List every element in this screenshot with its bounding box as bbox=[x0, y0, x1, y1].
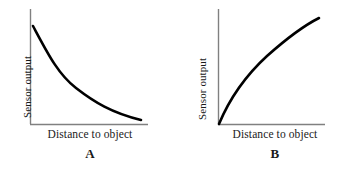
sensor-response-figure: Sensor output Distance to object A Senso… bbox=[0, 0, 341, 171]
panel-letter-b: B bbox=[215, 147, 335, 160]
chart-panel-a: Sensor output Distance to object A bbox=[0, 0, 170, 171]
saturating-curve-b bbox=[219, 18, 319, 124]
x-axis-label-a: Distance to object bbox=[30, 129, 150, 141]
x-axis-label-b: Distance to object bbox=[215, 129, 335, 141]
decay-curve-a bbox=[33, 26, 141, 120]
y-axis-label-a: Sensor output bbox=[22, 56, 33, 118]
panel-letter-a: A bbox=[30, 147, 150, 160]
chart-panel-b: Sensor output Distance to object B bbox=[171, 0, 341, 171]
y-axis-label-b: Sensor output bbox=[197, 58, 208, 120]
